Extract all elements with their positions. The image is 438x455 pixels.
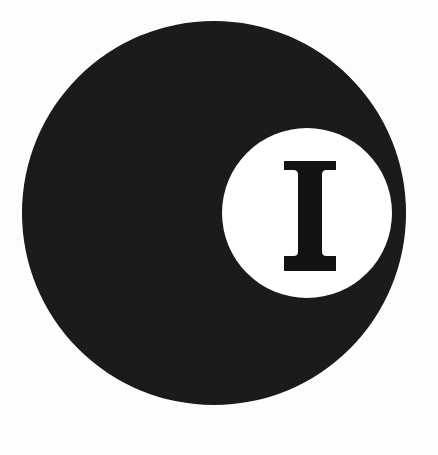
- ink-texture: [0, 0, 438, 455]
- logo-artwork: Circular logo mark with letter I: [0, 0, 438, 455]
- logo-canvas: Circular logo mark with letter I: [0, 0, 438, 455]
